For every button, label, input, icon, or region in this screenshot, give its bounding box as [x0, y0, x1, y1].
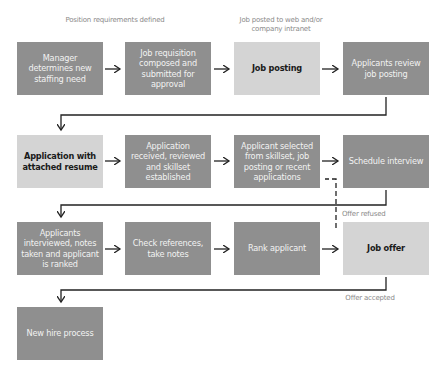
- node-manager-determines-need: Manager determines new staffing need: [17, 42, 103, 95]
- annotation-position-requirements: Position requirements defined: [60, 16, 170, 25]
- node-applicants-interviewed: Applicants interviewed, notes taken and …: [17, 222, 103, 275]
- arrow-offer-refused: [325, 179, 336, 228]
- node-new-hire-process: New hire process: [17, 307, 103, 360]
- node-rank-applicant: Rank applicant: [234, 222, 320, 275]
- annotation-job-posted: Job posted to web and/or company intrane…: [226, 16, 336, 34]
- node-applicant-selected: Applicant selected from skillset, job po…: [234, 135, 320, 188]
- node-job-offer: Job offer: [343, 222, 429, 275]
- node-check-references: Check references, take notes: [125, 222, 211, 275]
- node-job-posting: Job posting: [234, 42, 320, 95]
- node-schedule-interview: Schedule interview: [343, 135, 429, 188]
- node-applicants-review-posting: Applicants review job posting: [343, 42, 429, 95]
- node-job-requisition: Job requisition composed and submitted f…: [125, 42, 211, 95]
- arrow-n4-n5: [61, 97, 386, 130]
- annotation-offer-accepted: Offer accepted: [330, 294, 410, 303]
- arrow-n8-n9: [61, 190, 386, 217]
- node-application-received: Application received, reviewed and skill…: [125, 135, 211, 188]
- node-application-with-resume: Application with attached resume: [17, 135, 103, 188]
- annotation-offer-refused: Offer refused: [342, 210, 402, 219]
